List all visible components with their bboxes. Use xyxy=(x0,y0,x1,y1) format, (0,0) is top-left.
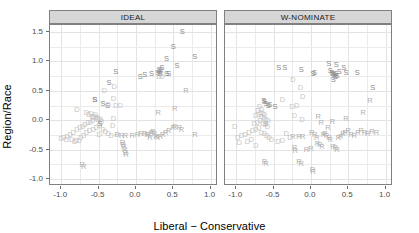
plot-area: SSSSSSSSSSSSSSDDSSSSDDDSSSSDRRRDDDDDDDDD… xyxy=(49,24,217,185)
y-tick-label: -1.0 xyxy=(29,173,43,182)
data-point-r: R xyxy=(316,114,321,122)
data-point-s: S xyxy=(92,96,97,104)
data-point-d: D xyxy=(117,102,122,110)
grid-line-horizontal xyxy=(225,106,391,107)
panel-strip: IDEAL xyxy=(49,10,217,24)
grid-line-vertical xyxy=(386,25,387,184)
data-point-s: S xyxy=(142,71,147,79)
data-point-r: R xyxy=(308,145,313,153)
data-point-d: D xyxy=(245,138,250,146)
x-tick-label: -0.5 xyxy=(266,190,280,199)
grid-line-horizontal xyxy=(225,76,391,77)
x-tick-label: 0.0 xyxy=(304,190,315,199)
data-point-r: R xyxy=(179,126,184,134)
data-point-s: S xyxy=(166,71,171,79)
data-point-r: R xyxy=(360,109,365,117)
grid-line-horizontal xyxy=(50,150,216,151)
data-point-s: S xyxy=(299,66,304,74)
grid-line-horizontal xyxy=(225,91,391,92)
data-point-s: S xyxy=(333,73,338,81)
data-point-d: D xyxy=(290,76,295,84)
grid-line-horizontal xyxy=(50,91,216,92)
grid-line-horizontal xyxy=(50,76,216,77)
data-point-s: S xyxy=(180,28,185,36)
y-tick-label: 0.5 xyxy=(32,85,43,94)
grid-line-vertical xyxy=(136,25,137,184)
data-point-s: S xyxy=(192,54,197,62)
grid-line-vertical xyxy=(155,25,156,184)
data-point-d: D xyxy=(232,123,237,131)
grid-line-horizontal xyxy=(225,47,391,48)
grid-line-vertical xyxy=(348,25,349,184)
data-point-s: S xyxy=(174,62,179,70)
x-tick-label: 0.5 xyxy=(342,190,353,199)
data-point-r: R xyxy=(334,146,339,154)
data-point-d: D xyxy=(111,83,116,91)
grid-line-horizontal xyxy=(225,61,391,62)
x-tick-mark xyxy=(172,186,173,189)
data-point-s: S xyxy=(276,65,281,73)
data-point-r: R xyxy=(192,132,197,140)
data-point-s: S xyxy=(171,43,176,51)
data-point-d: D xyxy=(97,131,102,139)
data-point-s: S xyxy=(370,84,375,92)
data-point-s: S xyxy=(355,69,360,77)
data-point-r: R xyxy=(300,133,305,141)
data-point-d: D xyxy=(287,134,292,142)
panel-strip-label: W-NOMINATE xyxy=(281,13,336,22)
y-tick-label: 1.0 xyxy=(32,56,43,65)
y-axis-tick-labels: -1.0-0.50.00.51.01.5 xyxy=(22,0,46,233)
data-point-r: R xyxy=(123,152,128,160)
data-point-d: D xyxy=(102,87,107,95)
data-point-r: R xyxy=(298,161,303,169)
grid-line-horizontal xyxy=(225,32,391,33)
data-point-r: R xyxy=(81,163,86,171)
data-point-r: R xyxy=(172,105,177,113)
grid-line-vertical xyxy=(99,25,100,184)
data-point-d: D xyxy=(236,139,241,147)
grid-line-horizontal xyxy=(50,179,216,180)
data-point-s: S xyxy=(282,64,287,72)
x-tick-mark xyxy=(235,186,236,189)
grid-line-vertical xyxy=(330,25,331,184)
data-point-d: D xyxy=(156,74,161,82)
panel-strip: W-NOMINATE xyxy=(224,10,392,24)
data-point-r: R xyxy=(319,143,324,151)
data-point-d: D xyxy=(300,93,305,101)
data-point-d: D xyxy=(299,116,304,124)
x-axis-tick-labels: -1.0-0.50.00.51.0 xyxy=(49,190,217,202)
data-point-d: D xyxy=(109,132,114,140)
x-tick-mark xyxy=(98,186,99,189)
grid-line-horizontal xyxy=(50,120,216,121)
data-point-d: D xyxy=(106,101,111,109)
x-axis-title: Liberal − Conservative xyxy=(0,220,419,232)
x-tick-label: 1.0 xyxy=(379,190,390,199)
data-point-r: R xyxy=(292,147,297,155)
y-axis-title: Region/Race xyxy=(0,0,15,233)
x-tick-label: 0.5 xyxy=(167,190,178,199)
data-point-r: R xyxy=(310,169,315,177)
panel-strip-label: IDEAL xyxy=(121,13,146,22)
grid-line-horizontal xyxy=(50,47,216,48)
data-point-d: D xyxy=(280,96,285,104)
x-tick-mark xyxy=(210,186,211,189)
y-tick-label: -0.5 xyxy=(29,144,43,153)
data-point-r: R xyxy=(374,129,379,137)
data-point-r: R xyxy=(367,97,372,105)
x-tick-label: -1.0 xyxy=(228,190,242,199)
data-point-d: D xyxy=(253,142,258,150)
data-point-d: D xyxy=(269,136,274,144)
x-tick-mark xyxy=(273,186,274,189)
data-point-r: R xyxy=(343,115,348,123)
x-axis-tick-marks xyxy=(49,186,217,189)
data-point-d: D xyxy=(114,131,119,139)
facet-panel-ideal: IDEALSSSSSSSSSSSSSSDDSSSSDDDSSSSDRRRDDDD… xyxy=(49,10,217,185)
x-tick-label: -0.5 xyxy=(91,190,105,199)
grid-line-horizontal xyxy=(50,61,216,62)
data-point-s: S xyxy=(98,120,103,128)
data-point-s: S xyxy=(149,70,154,78)
grid-line-vertical xyxy=(61,25,62,184)
data-point-s: S xyxy=(113,68,118,76)
data-point-d: D xyxy=(275,138,280,146)
data-point-s: S xyxy=(343,69,348,77)
